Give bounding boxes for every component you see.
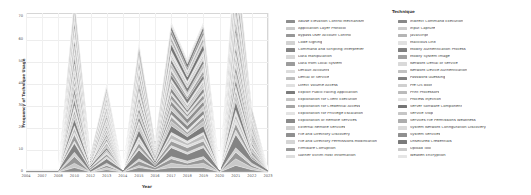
legend-item-label: Indirect Command Execution [410, 20, 463, 24]
legend-item-label: Exploitation for Credential Access [298, 105, 360, 109]
legend-swatch-icon [398, 55, 407, 58]
x-tick-label: 2016 [150, 175, 159, 179]
legend: Technique Abuse Elevation Control Mechan… [286, 9, 531, 189]
legend-swatch-icon [398, 112, 407, 115]
legend-swatch-icon [398, 27, 407, 30]
legend-item[interactable]: Modify System Image [398, 53, 531, 60]
x-tick-label: 2015 [134, 175, 143, 179]
legend-item[interactable]: Data from Local System [286, 61, 398, 68]
legend-item[interactable]: Exploit Public-Facing Application [286, 89, 398, 96]
legend-item-label: Command and Scripting Interpreter [298, 48, 364, 52]
legend-item[interactable]: Exploitation for Credential Access [286, 103, 398, 110]
legend-swatch-icon [286, 70, 295, 73]
legend-item[interactable]: Process Injection [398, 96, 531, 103]
legend-item[interactable]: Application Layer Protocol [286, 25, 398, 32]
legend-item-label: Bypass User Account Control [298, 34, 351, 38]
legend-item[interactable]: Default Accounts [286, 68, 398, 75]
legend-item[interactable]: Data Manipulation [286, 53, 398, 60]
legend-swatch-icon [286, 140, 295, 143]
legend-item-label: Password Guessing [410, 76, 445, 80]
legend-item[interactable]: External Remote Services [286, 124, 398, 131]
legend-item-label: File and Directory Permissions Modificat… [298, 140, 377, 144]
legend-item[interactable]: Server Software Component [398, 103, 531, 110]
legend-item[interactable]: Direct Volume Access [286, 82, 398, 89]
legend-swatch-icon [398, 41, 407, 44]
x-tick-label: 2012 [86, 175, 95, 179]
legend-item-label: JavaScript [410, 34, 428, 38]
y-tick-label: 20 [18, 126, 23, 130]
legend-item[interactable]: Weaken Encryption [398, 153, 531, 160]
legend-item[interactable]: Network Denial of Service [398, 61, 531, 68]
legend-item[interactable]: Indirect Command Execution [398, 18, 531, 25]
legend-item-label: Exploitation for Client Execution [298, 98, 357, 102]
legend-column-1: Indirect Command ExecutionInput CaptureJ… [398, 18, 531, 160]
legend-item[interactable]: Password Guessing [398, 75, 531, 82]
legend-item[interactable]: Denial of Service [286, 75, 398, 82]
y-tick-label: 70 [18, 16, 23, 20]
legend-item[interactable]: System Network Configuration Discovery [398, 124, 531, 131]
legend-item-label: Unsecured Credentials [410, 140, 452, 144]
x-tick-label: 2020 [215, 175, 224, 179]
legend-item[interactable]: Network Device Authentication [398, 68, 531, 75]
legend-item[interactable]: Upload Tool [398, 146, 531, 153]
legend-swatch-icon [286, 119, 295, 122]
legend-item[interactable]: System Services [398, 132, 531, 139]
x-tick-label: 2013 [102, 175, 111, 179]
legend-item[interactable]: Command and Scripting Interpreter [286, 46, 398, 53]
plot-area: 010203040506070 200420072008201020122013… [26, 13, 268, 172]
legend-swatch-icon [398, 20, 407, 23]
legend-swatch-icon [398, 62, 407, 65]
legend-item-label: Input Capture [410, 27, 435, 31]
legend-item[interactable]: Gather Victim Host Information [286, 153, 398, 160]
legend-swatch-icon [286, 126, 295, 129]
legend-item[interactable]: Input Capture [398, 25, 531, 32]
legend-item-label: System Network Configuration Discovery [410, 126, 486, 130]
legend-swatch-icon [286, 20, 295, 23]
legend-item-label: Denial of Service [298, 76, 329, 80]
legend-item[interactable]: Exploitation for Client Execution [286, 96, 398, 103]
y-tick-label: 10 [18, 148, 23, 152]
legend-item-label: Process Injection [410, 98, 441, 102]
y-tick-label: 60 [18, 38, 23, 42]
legend-item[interactable]: File and Directory Permissions Modificat… [286, 139, 398, 146]
legend-item[interactable]: Service Stop [398, 110, 531, 117]
legend-item-label: File and Directory Discovery [298, 133, 350, 137]
legend-swatch-icon [286, 77, 295, 80]
legend-item[interactable]: Code Signing [286, 39, 398, 46]
legend-item-label: Modify Authentication Process [410, 48, 466, 52]
legend-item-label: Application Layer Protocol [298, 27, 346, 31]
legend-item[interactable]: Bypass User Account Control [286, 32, 398, 39]
legend-column-0: Abuse Elevation Control MechanismApplica… [286, 18, 398, 160]
x-tick-label: 2019 [199, 175, 208, 179]
legend-item-label: Weaken Encryption [410, 154, 446, 158]
legend-item-label: Exploitation for Privilege Escalation [298, 112, 363, 116]
legend-item-label: Data from Local System [298, 62, 342, 66]
legend-swatch-icon [286, 91, 295, 94]
legend-swatch-icon [286, 155, 295, 158]
legend-swatch-icon [398, 48, 407, 51]
legend-item[interactable]: JavaScript [398, 32, 531, 39]
legend-item-label: Modify System Image [410, 55, 450, 59]
legend-item[interactable]: Exploitation for Privilege Escalation [286, 110, 398, 117]
legend-swatch-icon [398, 155, 407, 158]
legend-swatch-icon [286, 48, 295, 51]
x-tick-label: 2004 [21, 175, 30, 179]
x-tick-label: 2008 [54, 175, 63, 179]
legend-item[interactable]: Services File Permissions Weakness [398, 117, 531, 124]
legend-item[interactable]: Unsecured Credentials [398, 139, 531, 146]
legend-item-label: Direct Volume Access [298, 84, 338, 88]
x-axis-label: Year [26, 184, 268, 189]
legend-item[interactable]: Modify Authentication Process [398, 46, 531, 53]
legend-item-label: Print Processors [410, 91, 439, 95]
legend-item[interactable]: Abuse Elevation Control Mechanism [286, 18, 398, 25]
legend-item[interactable]: Firmware Corruption [286, 146, 398, 153]
legend-item[interactable]: File and Directory Discovery [286, 132, 398, 139]
legend-item[interactable]: Malicious Link [398, 39, 531, 46]
legend-item[interactable]: Exploitation of Remote Services [286, 117, 398, 124]
y-tick-label: 50 [18, 60, 23, 64]
legend-item[interactable]: Print Processors [398, 89, 531, 96]
legend-item[interactable]: Pre-OS Boot [398, 82, 531, 89]
legend-item-label: Exploitation of Remote Services [298, 119, 357, 123]
legend-swatch-icon [286, 148, 295, 151]
legend-item-label: Gather Victim Host Information [298, 154, 356, 158]
